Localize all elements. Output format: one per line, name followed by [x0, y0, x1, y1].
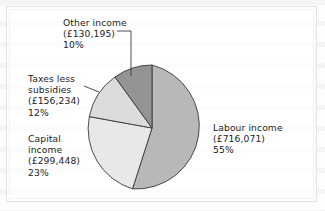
pie-label-labour-income-name: Labour income [213, 122, 283, 133]
pie-label-capital-name-line2: income [28, 144, 80, 155]
pie-label-capital-value: (£299,448) [28, 155, 80, 166]
pie-label-taxes-value: (£156,234) [28, 95, 80, 106]
pie-label-labour-income-value: (£716,071) [213, 133, 283, 144]
pie-label-taxes-name-line1: Taxes less [28, 73, 80, 84]
pie-label-other-income-value: (£130,195) [63, 28, 127, 39]
pie-label-labour-income: Labour income (£716,071) 55% [213, 122, 283, 156]
pie-label-other-income-percent: 10% [63, 39, 127, 50]
pie-label-taxes-less-subsidies: Taxes less subsidies (£156,234) 12% [28, 73, 80, 118]
pie-label-capital-percent: 23% [28, 167, 80, 178]
leader-line-taxes-less-subsidies [84, 86, 99, 92]
pie-label-capital-name-line1: Capital [28, 133, 80, 144]
pie-label-other-income-name: Other income [63, 17, 127, 28]
pie-label-taxes-name-line2: subsidies [28, 84, 80, 95]
pie-label-labour-income-percent: 55% [213, 144, 283, 155]
pie-label-capital-income: Capital income (£299,448) 23% [28, 133, 80, 178]
pie-label-other-income: Other income (£130,195) 10% [63, 17, 127, 51]
pie-label-taxes-percent: 12% [28, 107, 80, 118]
pie-chart-figure: Other income (£130,195) 10% Taxes less s… [0, 0, 325, 211]
